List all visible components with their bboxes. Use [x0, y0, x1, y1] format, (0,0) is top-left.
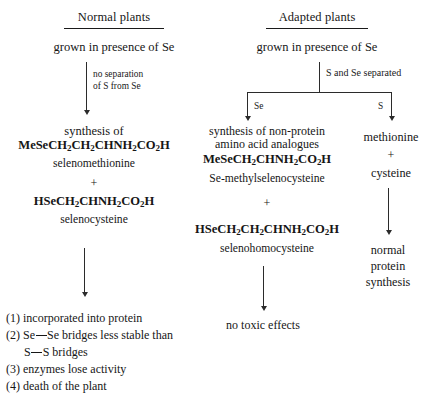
- left-edge-label: no separation of S from Se: [93, 68, 143, 92]
- middle-formula-selenohomocysteine: HSeCH2CH2CHNH2CO2H: [195, 222, 339, 238]
- left-arrow-shaft: [86, 62, 87, 112]
- bond-line: [36, 335, 47, 336]
- left-compound-selenomethionine: selenomethionine: [53, 157, 135, 171]
- column-title-adapted-plants-label: Adapted plants: [279, 10, 356, 24]
- right-condition: grown in presence of Se: [257, 40, 378, 56]
- branch-s-label: S: [378, 100, 383, 112]
- left-formula-selenomethionine: MeSeCH2CH2CHNH2CO2H: [18, 138, 169, 154]
- list-item: (4) death of the plant: [6, 378, 173, 395]
- middle-compound-se-methylselenocysteine: Se-methylselenocysteine: [209, 172, 324, 186]
- left-outcomes-arrow-shaft: [84, 248, 85, 294]
- title-underline-right: [266, 28, 368, 29]
- column-title-adapted-plants: Adapted plants: [266, 10, 368, 29]
- far-plus-sign: +: [388, 148, 395, 163]
- branch-se-shaft: [247, 92, 248, 118]
- middle-plus-sign: +: [264, 196, 271, 211]
- list-item: (1) incorporated into protein: [6, 310, 173, 327]
- branch-s-shaft: [391, 92, 392, 118]
- far-result-arrow-head: [386, 230, 392, 235]
- middle-formula-se-methylselenocysteine: MeSeCH2CHNH2CO2H: [203, 152, 331, 168]
- list-item-number: (3): [6, 362, 20, 376]
- list-item-number: (1): [6, 311, 20, 325]
- split-bar: [247, 92, 391, 93]
- middle-result-arrow-head: [261, 306, 267, 311]
- title-underline-left: [64, 28, 164, 29]
- middle-result-no-toxic-effects: no toxic effects: [226, 318, 300, 333]
- list-item-text: incorporated into protein: [23, 311, 142, 325]
- column-title-normal-plants: Normal plants: [64, 10, 164, 29]
- middle-compound-selenohomocysteine: selenohomocysteine: [220, 242, 314, 256]
- far-result-normal-protein-synthesis: normal protein synthesis: [366, 242, 411, 290]
- branch-se-label: Se: [254, 100, 263, 112]
- middle-result-arrow-shaft: [263, 266, 264, 308]
- list-item-number: (4): [6, 379, 20, 393]
- list-item-text: SeSe bridges less stable than: [23, 328, 173, 342]
- column-title-normal-plants-label: Normal plants: [78, 10, 150, 24]
- left-outcomes-arrow-head: [82, 292, 88, 297]
- left-edge-label-line2: of S from Se: [93, 81, 141, 91]
- branch-s-arrow-head: [389, 116, 395, 121]
- far-product-methionine: methionine: [364, 130, 419, 145]
- middle-synthesis-line2: amino acid analogues: [215, 137, 319, 152]
- left-arrow-head: [84, 110, 90, 115]
- far-result-line2: protein: [371, 259, 406, 273]
- left-outcome-list: (1) incorporated into protein (2) SeSe b…: [6, 310, 173, 395]
- far-result-line3: synthesis: [366, 275, 411, 289]
- list-item: (2) SeSe bridges less stable than: [6, 327, 173, 344]
- far-result-arrow-shaft: [388, 188, 389, 232]
- split-label: S and Se separated: [326, 66, 401, 79]
- far-result-line1: normal: [371, 243, 406, 257]
- list-item-number: (2): [6, 328, 20, 342]
- list-item-text: death of the plant: [23, 379, 107, 393]
- bond-line: [31, 352, 42, 353]
- left-formula-selenocysteine: HSeCH2CHNH2CO2H: [34, 194, 155, 210]
- left-condition: grown in presence of Se: [54, 40, 175, 56]
- left-edge-label-line1: no separation: [93, 69, 143, 79]
- list-item-continuation: SS bridges: [6, 344, 173, 361]
- far-product-cysteine: cysteine: [371, 166, 411, 181]
- list-item: (3) enzymes lose activity: [6, 361, 173, 378]
- left-compound-selenocysteine: selenocysteine: [60, 213, 128, 227]
- left-plus-sign: +: [91, 176, 98, 191]
- list-item-text: enzymes lose activity: [23, 362, 126, 376]
- branch-se-arrow-head: [245, 116, 251, 121]
- split-stem: [319, 62, 320, 92]
